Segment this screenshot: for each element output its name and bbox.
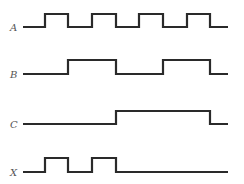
- waveform-b: [23, 60, 228, 74]
- signal-x: X: [9, 158, 228, 178]
- signal-label-b: B: [9, 69, 17, 80]
- signal-b: B: [9, 60, 228, 80]
- signal-c: C: [10, 111, 228, 130]
- waveform-a: [23, 14, 228, 27]
- signal-a: A: [9, 14, 228, 33]
- waveform-c: [23, 111, 228, 124]
- signal-label-c: C: [10, 119, 18, 130]
- signal-label-x: X: [9, 167, 18, 178]
- signal-label-a: A: [9, 22, 17, 33]
- timing-diagram: A B C X: [0, 0, 244, 184]
- waveform-x: [23, 158, 228, 172]
